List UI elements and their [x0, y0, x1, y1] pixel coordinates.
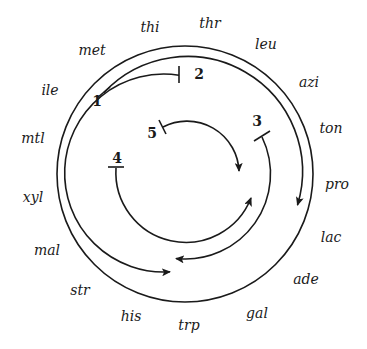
chromosome-map: thi thr leu azi ton pro lac ade gal trp …: [0, 0, 367, 349]
origin-label-5: 5: [147, 125, 157, 141]
origin-label-4: 4: [112, 150, 122, 166]
origin-label-3: 3: [252, 113, 262, 129]
gene-label-thi: thi: [140, 19, 159, 35]
gene-label-gal: gal: [246, 305, 268, 321]
transfer-arc-3: [176, 137, 270, 259]
gene-label-ile: ile: [41, 82, 58, 98]
origin-label-2: 2: [194, 66, 204, 82]
gene-label-mtl: mtl: [21, 130, 44, 146]
origin-tick-3: [254, 131, 270, 141]
gene-label-mal: mal: [34, 242, 60, 258]
gene-label-met: met: [78, 42, 106, 58]
chromosome-circle: [57, 46, 313, 302]
gene-label-lac: lac: [321, 229, 342, 245]
gene-label-ton: ton: [319, 120, 342, 136]
gene-label-xyl: xyl: [23, 189, 43, 205]
transfer-arc-5: [163, 121, 239, 171]
origin-label-1: 1: [92, 93, 102, 109]
gene-labels: thi thr leu azi ton pro lac ade gal trp …: [21, 15, 349, 333]
gene-label-his: his: [121, 308, 142, 324]
gene-label-azi: azi: [299, 74, 319, 90]
gene-label-pro: pro: [325, 176, 349, 192]
gene-label-ade: ade: [293, 271, 319, 287]
gene-label-thr: thr: [199, 15, 222, 31]
transfer-arc-4: [116, 168, 251, 242]
transfer-arc-2: [65, 74, 179, 272]
origin-tick-5: [159, 120, 166, 134]
gene-label-str: str: [70, 282, 91, 298]
gene-label-leu: leu: [255, 36, 277, 52]
gene-label-trp: trp: [178, 317, 199, 333]
